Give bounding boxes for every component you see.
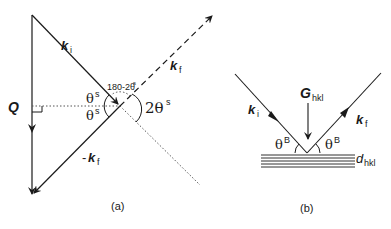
ki-b-subscript: i [257,109,259,119]
lattice-planes [261,155,355,167]
diffraction-diagram: k i k f Q - k f θ s θ s 180-2θ s 2θ s (a… [0,0,391,229]
ki-subscript: i [70,45,72,55]
d-label: d [356,151,364,166]
neg-kf-label: k [88,150,96,165]
two-theta-sup: s [166,97,171,107]
theta-b-left-label: θ [275,137,283,152]
kf-b-label: k [356,112,364,127]
theta-bottom-label: θ [86,108,94,123]
kf-subscript: f [179,65,182,75]
g-subscript: hkl [312,93,324,103]
ki-label: k [61,38,69,53]
supplement-angle-label: 180-2θ [107,82,135,92]
two-theta-label: 2θ [145,99,164,117]
supplement-arc-dotted [110,92,130,96]
panel-a-caption: (a) [111,200,124,212]
kf-dashed-line [120,16,212,106]
ki-extension-dotted [120,106,200,185]
theta-top-label: θ [86,91,94,106]
kf-label: k [170,58,178,73]
panel-a: k i k f Q - k f θ s θ s 180-2θ s 2θ s (a… [8,15,212,212]
theta-bottom-sup: s [95,106,100,116]
ki-b-label: k [248,102,256,117]
neg-kf-subscript: f [97,157,100,167]
theta-b-arc-right [316,144,320,153]
panel-b: k i k f G hkl θ B θ B d hkl (b) [235,73,381,214]
theta-b-arc-left [295,144,299,153]
theta-top-sup: s [95,89,100,99]
panel-b-caption: (b) [300,202,313,214]
q-label: Q [8,99,19,115]
supplement-angle-sup: s [133,80,136,86]
kf-b-subscript: f [365,119,368,129]
theta-b-right-label: θ [325,137,333,152]
g-label: G [300,85,311,101]
neg-kf-prefix: - [82,150,86,165]
theta-b-left-sup: B [284,135,290,145]
right-angle-marker [32,106,42,112]
neg-kf-vector-line [34,106,120,193]
two-theta-arc [132,94,142,122]
d-subscript: hkl [364,158,376,168]
ki-vector-line [32,15,118,104]
theta-b-right-sup: B [334,135,340,145]
